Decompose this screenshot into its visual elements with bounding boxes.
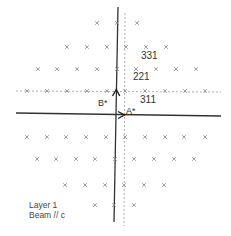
a-star-label: A* [126,107,136,116]
lattice-spot-icon [63,183,67,187]
lattice-spot-icon [45,135,49,139]
lattice-spot-icon [93,157,97,161]
lattice-spot-icon [36,67,40,71]
lattice-spot-icon [64,135,68,139]
lattice-spot-icon [95,67,99,71]
lattice-spot-icon [95,21,99,25]
lattice-spot-icon [174,67,178,71]
lattice-spot-icon [93,203,97,207]
lattice-spot-icon [124,45,128,49]
lattice-spot-icon [105,45,109,49]
lattice-spot-icon [154,67,158,71]
lattice-spot-icon [55,67,59,71]
lattice-spot-icon [35,157,39,161]
lattice-spot-icon [132,157,136,161]
lattice-spot-icon [84,135,88,139]
lattice-spot-icon [163,89,167,93]
lattice-spot-icon [183,89,187,93]
lattice-spot-icon [105,89,109,93]
index-label-331: 331 [141,51,158,61]
lattice-spot-icon [135,21,139,25]
lattice-spot-icon [144,45,148,49]
lattice-spot-icon [192,157,196,161]
lattice-spot-icon [75,67,79,71]
lattice-spot-icon [123,135,127,139]
horizontal-axis [16,113,221,116]
lattice-spot-icon [25,135,29,139]
b-star-label: B* [98,99,108,108]
lattice-spot-icon [143,135,147,139]
lattice-spot-icon [164,45,168,49]
diffraction-diagram: 331 221 311 B* A* Layer 1 Beam // c [0,0,231,236]
lattice-spot-icon [142,183,146,187]
lattice-spot-icon [65,45,69,49]
lattice-spot-icon [203,135,207,139]
legend-layer: Layer 1 [29,201,57,210]
lattice-spot-icon [103,183,107,187]
lattice-spot-icon [132,203,136,207]
legend-beam: Beam // c [29,211,65,220]
lattice-spot-icon [104,135,108,139]
lattice-spot-icon [182,135,186,139]
lattice-spot-icon [143,89,147,93]
index-label-311: 311 [140,95,156,105]
lattice-spot-icon [85,45,89,49]
lattice-spot-icon [172,157,176,161]
lattice-spot-icon [162,183,166,187]
index-label-221: 221 [133,72,150,82]
lattice-spot-icon [152,157,156,161]
lattice-spot-icon [163,135,167,139]
lattice-spot-icon [74,157,78,161]
lattice-spot-icon [194,67,198,71]
lattice-spot-icon [83,183,87,187]
lattice-spot-icon [54,157,58,161]
